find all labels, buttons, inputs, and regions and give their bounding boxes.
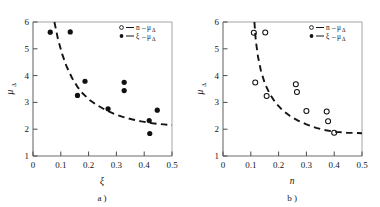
- x-tick-label-0: 0: [221, 160, 226, 170]
- data-point-open: [264, 93, 269, 98]
- x-tick-label-4: 0.4: [139, 160, 151, 170]
- panel-a-y-ticks: [33, 22, 38, 156]
- y-tick-label-4: 4: [215, 71, 220, 81]
- legend-minus-2: –: [331, 32, 336, 41]
- y-axis-title-mu: μ: [195, 89, 205, 95]
- data-point-open: [251, 30, 256, 35]
- data-point-filled: [82, 79, 87, 84]
- y-tick-label-5: 5: [215, 44, 220, 54]
- panel-b-legend: n – μ Δ ξ – μ Δ: [310, 23, 346, 42]
- legend-mu-sub-1: Δ: [152, 27, 156, 33]
- legend-marker-filled-circle-icon: [120, 34, 124, 38]
- data-point-filled: [75, 93, 80, 98]
- x-tick-label-1: 0.1: [245, 160, 256, 170]
- y-tick-label-1: 1: [215, 151, 220, 161]
- y-axis-title-sub: Δ: [10, 83, 17, 87]
- data-point-filled: [147, 131, 152, 136]
- data-point-open: [294, 89, 299, 94]
- panel-b-canvas: 1 2 3 4 5 6 0 0.1 0.2 0.3 0.4 0.5 μ Δ n …: [190, 0, 380, 207]
- y-tick-label-3: 3: [215, 97, 220, 107]
- x-tick-label-5: 0.5: [356, 160, 368, 170]
- x-tick-label-1: 0.1: [55, 160, 66, 170]
- panel-a-axes: [33, 22, 172, 156]
- panel-b-y-axis-title: μ Δ: [195, 83, 207, 95]
- panel-a-legend: n – μ Δ ξ – μ Δ: [120, 23, 156, 42]
- y-tick-label-6: 6: [25, 17, 30, 27]
- data-point-filled: [122, 80, 127, 85]
- x-axis-title: n: [290, 176, 295, 186]
- data-point-open: [304, 108, 309, 113]
- data-point-filled: [155, 108, 160, 113]
- legend-mu-2: μ: [337, 32, 341, 41]
- y-axis-title-sub: Δ: [200, 83, 207, 87]
- panel-b-y-ticks: [223, 22, 228, 156]
- legend-label-xi: ξ: [136, 32, 140, 41]
- x-tick-label-3: 0.3: [111, 160, 123, 170]
- data-point-filled: [68, 29, 73, 34]
- data-point-filled: [122, 88, 127, 93]
- panel-a: 1 2 3 4 5 6 0 0.1 0.2 0.3 0.4 0.5 μ Δ ξ …: [0, 0, 190, 207]
- panel-b-axes: [223, 22, 362, 156]
- x-tick-label-2: 0.2: [83, 160, 94, 170]
- x-tick-label-4: 0.4: [329, 160, 341, 170]
- panel-caption-b: b ): [287, 193, 297, 203]
- x-tick-label-3: 0.3: [301, 160, 313, 170]
- y-tick-label-1: 1: [25, 151, 30, 161]
- figure-two-panel-scatter: 1 2 3 4 5 6 0 0.1 0.2 0.3 0.4 0.5 μ Δ ξ …: [0, 0, 380, 207]
- legend-label-xi: ξ: [326, 32, 330, 41]
- legend-mu-sub-2: Δ: [342, 36, 346, 42]
- panel-a-y-axis-title: μ Δ: [5, 83, 17, 95]
- panel-a-x-ticks: [33, 152, 172, 157]
- y-tick-label-5: 5: [25, 44, 30, 54]
- x-tick-label-2: 0.2: [273, 160, 284, 170]
- legend-marker-open-circle-icon: [310, 26, 314, 30]
- panel-a-x-tick-labels: 0 0.1 0.2 0.3 0.4 0.5: [31, 160, 178, 170]
- data-point-filled: [147, 118, 152, 123]
- panel-b-x-ticks: [223, 152, 362, 157]
- y-tick-label-6: 6: [215, 17, 220, 27]
- data-point-open: [293, 82, 298, 87]
- y-axis-title-mu: μ: [5, 89, 15, 95]
- y-tick-label-4: 4: [25, 71, 30, 81]
- panel-b-y-tick-labels: 1 2 3 4 5 6: [215, 17, 220, 161]
- y-tick-label-2: 2: [25, 124, 30, 134]
- panel-caption-a: a ): [97, 193, 106, 203]
- y-tick-label-3: 3: [25, 97, 30, 107]
- legend-marker-filled-circle-icon: [310, 34, 314, 38]
- panel-b: 1 2 3 4 5 6 0 0.1 0.2 0.3 0.4 0.5 μ Δ n …: [190, 0, 380, 207]
- data-point-open: [253, 80, 258, 85]
- data-point-filled: [105, 106, 110, 111]
- legend-marker-open-circle-icon: [120, 26, 124, 30]
- legend-mu-sub-2: Δ: [152, 36, 156, 42]
- data-point-open: [263, 30, 268, 35]
- panel-a-y-tick-labels: 1 2 3 4 5 6: [25, 17, 30, 161]
- y-tick-label-2: 2: [215, 124, 220, 134]
- x-tick-label-0: 0: [31, 160, 36, 170]
- legend-minus-2: –: [141, 32, 146, 41]
- data-point-filled: [48, 30, 53, 35]
- x-axis-title: ξ: [100, 176, 105, 187]
- legend-mu-sub-1: Δ: [342, 27, 346, 33]
- panel-b-data-points: [251, 30, 336, 135]
- legend-mu-2: μ: [147, 32, 151, 41]
- data-point-open: [326, 119, 331, 124]
- x-tick-label-5: 0.5: [166, 160, 178, 170]
- fit-curve-b: [254, 22, 362, 133]
- panel-b-x-tick-labels: 0 0.1 0.2 0.3 0.4 0.5: [221, 160, 368, 170]
- data-point-open: [324, 109, 329, 114]
- panel-a-canvas: 1 2 3 4 5 6 0 0.1 0.2 0.3 0.4 0.5 μ Δ ξ …: [0, 0, 190, 207]
- panel-a-data-points: [48, 29, 160, 136]
